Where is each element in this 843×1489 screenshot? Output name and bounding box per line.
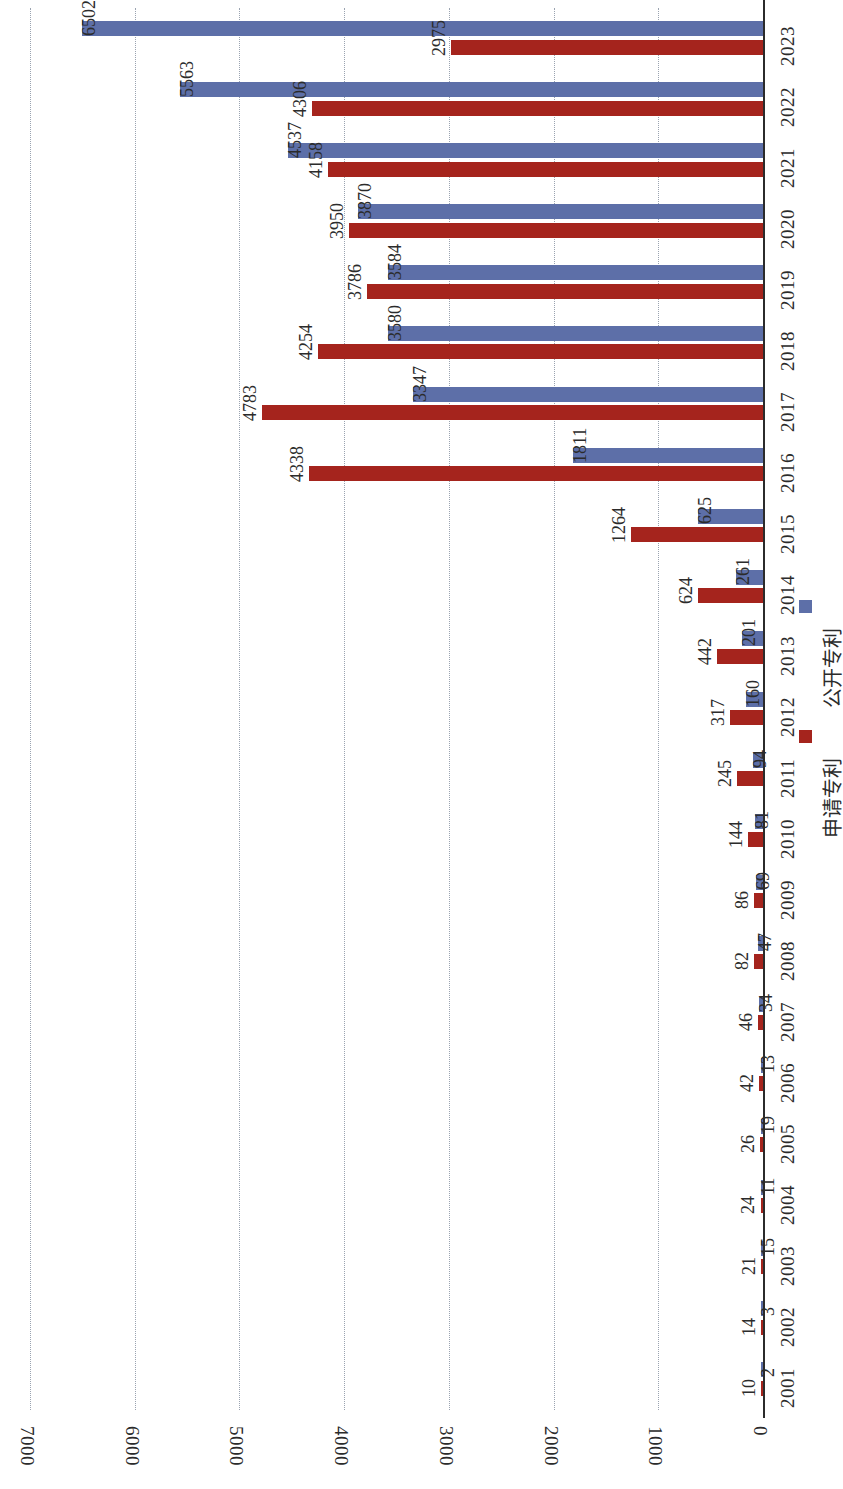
bar-published-2016 [573, 448, 763, 463]
category-row-2003: 15212003 [30, 1227, 763, 1288]
bar-applied-2020 [349, 223, 763, 238]
value-label-published-2008: 47 [755, 933, 776, 951]
bar-applied-2002 [761, 1320, 763, 1335]
value-label-published-2015: 625 [695, 497, 716, 524]
bar-applied-2003 [761, 1259, 763, 1274]
bar-applied-2017 [262, 405, 763, 420]
value-label-applied-2022: 4306 [290, 81, 311, 117]
category-row-2023: 650229752023 [30, 8, 763, 69]
value-label-applied-2015: 1264 [609, 507, 630, 543]
value-tick-label-3000: 3000 [435, 1426, 457, 1486]
value-label-applied-2013: 442 [695, 638, 716, 665]
value-label-applied-2005: 26 [738, 1135, 759, 1153]
value-label-published-2003: 15 [758, 1238, 779, 1256]
category-label-2009: 2009 [777, 880, 799, 920]
category-row-2021: 453741582021 [30, 130, 763, 191]
bar-applied-2004 [761, 1198, 764, 1213]
value-label-published-2006: 13 [758, 1055, 779, 1073]
value-label-published-2002: 3 [758, 1307, 779, 1316]
category-label-2004: 2004 [777, 1185, 799, 1225]
bar-published-2022 [180, 82, 763, 97]
value-label-published-2013: 201 [739, 619, 760, 646]
bar-published-2018 [388, 326, 763, 341]
value-label-published-2014: 261 [733, 558, 754, 585]
category-label-2022: 2022 [777, 87, 799, 127]
value-label-applied-2009: 86 [732, 891, 753, 909]
chart-root: 单位：件 01000200030004000500060007000210200… [0, 0, 843, 1489]
bar-applied-2023 [451, 40, 763, 55]
value-label-applied-2019: 3786 [345, 264, 366, 300]
bar-published-2021 [288, 143, 763, 158]
value-label-applied-2016: 4338 [287, 446, 308, 482]
category-label-2005: 2005 [777, 1124, 799, 1164]
bar-applied-2007 [758, 1015, 763, 1030]
value-label-applied-2012: 317 [708, 699, 729, 726]
bar-applied-2021 [328, 162, 763, 177]
value-tick-label-7000: 7000 [16, 1426, 38, 1486]
bar-applied-2012 [730, 710, 763, 725]
category-label-2008: 2008 [777, 941, 799, 981]
bar-applied-2011 [737, 771, 763, 786]
value-label-published-2010: 81 [752, 811, 773, 829]
bar-applied-2001 [761, 1381, 763, 1396]
category-label-2016: 2016 [777, 453, 799, 493]
bar-published-2023 [82, 21, 763, 36]
category-label-2015: 2015 [777, 514, 799, 554]
value-label-applied-2020: 3950 [327, 203, 348, 239]
bar-applied-2013 [717, 649, 763, 664]
bar-applied-2006 [759, 1076, 763, 1091]
value-label-applied-2011: 245 [715, 760, 736, 787]
value-label-applied-2007: 46 [736, 1013, 757, 1031]
category-row-2016: 181143382016 [30, 435, 763, 496]
value-label-applied-2018: 4254 [296, 324, 317, 360]
category-label-2017: 2017 [777, 392, 799, 432]
category-row-2010: 811442010 [30, 800, 763, 861]
bar-applied-2010 [748, 832, 763, 847]
bar-applied-2016 [309, 466, 763, 481]
category-label-2007: 2007 [777, 1002, 799, 1042]
value-label-applied-2002: 14 [739, 1318, 760, 1336]
category-label-2018: 2018 [777, 331, 799, 371]
value-label-published-2023: 6502 [79, 0, 100, 36]
plot-area: 0100020003000400050006000700021020013142… [30, 8, 763, 1410]
bar-applied-2015 [631, 527, 763, 542]
value-label-published-2011: 94 [750, 750, 771, 768]
category-row-2019: 358437862019 [30, 252, 763, 313]
value-tick-label-1000: 1000 [644, 1426, 666, 1486]
value-tick-label-2000: 2000 [540, 1426, 562, 1486]
legend-swatch-app-icon [799, 730, 812, 743]
value-label-applied-2006: 42 [737, 1074, 758, 1092]
category-row-2001: 2102001 [30, 1349, 763, 1410]
category-row-2007: 34462007 [30, 983, 763, 1044]
value-label-applied-2003: 21 [739, 1257, 760, 1275]
category-label-2019: 2019 [777, 270, 799, 310]
bar-applied-2019 [367, 284, 763, 299]
category-row-2013: 2014422013 [30, 618, 763, 679]
value-label-applied-2008: 82 [732, 952, 753, 970]
bar-applied-2009 [754, 893, 763, 908]
category-row-2020: 387039502020 [30, 191, 763, 252]
value-tick-label-4000: 4000 [330, 1426, 352, 1486]
category-label-2023: 2023 [777, 26, 799, 66]
value-label-applied-2021: 4158 [306, 142, 327, 178]
category-row-2008: 47822008 [30, 922, 763, 983]
category-row-2015: 62512642015 [30, 496, 763, 557]
value-tick-label-5000: 5000 [225, 1426, 247, 1486]
legend-swatch-pub-icon [799, 600, 812, 613]
legend-label-app: 申请专利 [817, 758, 843, 838]
bar-applied-2005 [760, 1137, 763, 1152]
value-axis-unit-title: 单位：件 [0, 1282, 2, 1358]
category-row-2004: 11242004 [30, 1166, 763, 1227]
category-row-2011: 942452011 [30, 739, 763, 800]
value-label-published-2012: 160 [743, 680, 764, 707]
category-row-2018: 358042542018 [30, 313, 763, 374]
legend-label-pub: 公开专利 [817, 628, 843, 708]
bar-applied-2018 [318, 344, 763, 359]
category-label-2006: 2006 [777, 1063, 799, 1103]
value-tick-label-6000: 6000 [121, 1426, 143, 1486]
category-row-2017: 334747832017 [30, 374, 763, 435]
category-row-2014: 2616242014 [30, 557, 763, 618]
value-label-applied-2017: 4783 [240, 385, 261, 421]
category-row-2005: 19262005 [30, 1105, 763, 1166]
value-label-published-2009: 69 [753, 872, 774, 890]
